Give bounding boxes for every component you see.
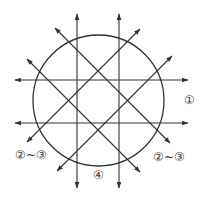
circle-boundary	[33, 35, 164, 166]
ray-diagonal-backslash-b	[55, 28, 170, 143]
ray-diagonal-slash-c	[27, 29, 140, 142]
label-region-1: ①	[184, 94, 195, 106]
label-region-2-3-left: ②~③	[15, 149, 47, 161]
ray-diagram	[0, 0, 208, 204]
label-region-4: ④	[93, 169, 104, 181]
label-region-2-3-right: ②~③	[153, 151, 185, 163]
